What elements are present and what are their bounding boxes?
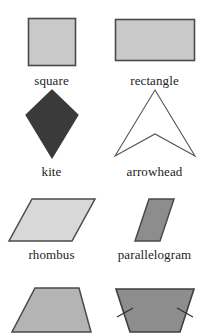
parallelogram-shape-icon xyxy=(129,196,181,244)
shape-cell-square: square xyxy=(0,16,103,84)
rectangle-shape-icon xyxy=(112,16,198,68)
isosceles-trapezoid-shape-icon xyxy=(109,286,201,335)
shape-label-parallelogram: parallelogram xyxy=(118,248,192,261)
rhombus-shape-icon xyxy=(6,196,98,244)
trapezoid-shape-icon xyxy=(9,286,95,335)
shapes-figure: square rectangle kite arrowhead xyxy=(0,0,206,335)
square-shape-icon xyxy=(24,16,80,68)
shape-cell-trapezoid xyxy=(0,286,103,335)
shape-label-arrowhead: arrowhead xyxy=(127,165,183,178)
shape-cell-isosceles-trapezoid xyxy=(103,286,206,335)
arrowhead-shape-icon xyxy=(110,88,200,160)
shape-cell-kite: kite xyxy=(0,88,103,180)
shape-label-kite: kite xyxy=(42,165,62,178)
kite-shape-icon xyxy=(21,88,83,160)
shape-label-square: square xyxy=(34,74,69,87)
shape-cell-arrowhead: arrowhead xyxy=(103,88,206,180)
shape-cell-parallelogram: parallelogram xyxy=(103,196,206,262)
shape-cell-rectangle: rectangle xyxy=(103,16,206,84)
shape-cell-rhombus: rhombus xyxy=(0,196,103,262)
shape-label-rectangle: rectangle xyxy=(130,74,179,87)
shape-label-rhombus: rhombus xyxy=(28,248,74,261)
